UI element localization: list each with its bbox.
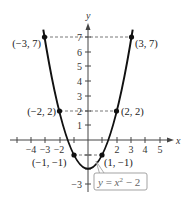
- y-axis-label: y: [85, 10, 91, 21]
- point-label: (2, 2): [121, 106, 144, 118]
- x-tick-label: 4: [143, 144, 148, 155]
- point-m3-7: [42, 34, 47, 39]
- x-tick-label: −2: [54, 144, 65, 155]
- y-tick-label: 5: [77, 61, 82, 72]
- point-label: (−2, 2): [27, 106, 56, 118]
- y-axis-arrow-icon: [86, 23, 91, 30]
- y-tick-label: 2: [77, 106, 82, 117]
- y-tick-label: 3: [77, 91, 82, 102]
- point-label: (−3, 7): [12, 38, 41, 50]
- point-p2-2: [114, 108, 119, 113]
- x-tick-label: 5: [158, 144, 163, 155]
- y-tick-label: −3: [71, 179, 82, 190]
- x-tick-label: −3: [40, 144, 51, 155]
- point-m2-2: [57, 108, 62, 113]
- x-tick-label: −4: [26, 144, 37, 155]
- x-axis-label: x: [175, 135, 181, 146]
- point-label: (−1, −1): [32, 157, 67, 169]
- x-tick-label: 3: [129, 144, 134, 155]
- x-tick-label: 2: [115, 144, 120, 155]
- y-tick-label: 7: [77, 32, 82, 43]
- point-label: (3, 7): [135, 38, 158, 50]
- x-axis: x −4 −3 −2 2 3 4 5: [10, 135, 181, 156]
- point-m1-m1: [71, 152, 76, 157]
- y-tick-label: 1: [77, 120, 82, 131]
- y-tick-label: 4: [77, 76, 82, 87]
- y-tick-label: 6: [77, 47, 82, 58]
- point-label: (1, −1): [104, 157, 133, 169]
- parabola-graph: x −4 −3 −2 2 3 4 5 y 7 6 5 4 3 2 1 −: [0, 0, 188, 207]
- x-axis-arrow-icon: [167, 138, 174, 143]
- point-p3-7: [129, 34, 134, 39]
- equation-label: y = x2 − 2: [97, 176, 140, 188]
